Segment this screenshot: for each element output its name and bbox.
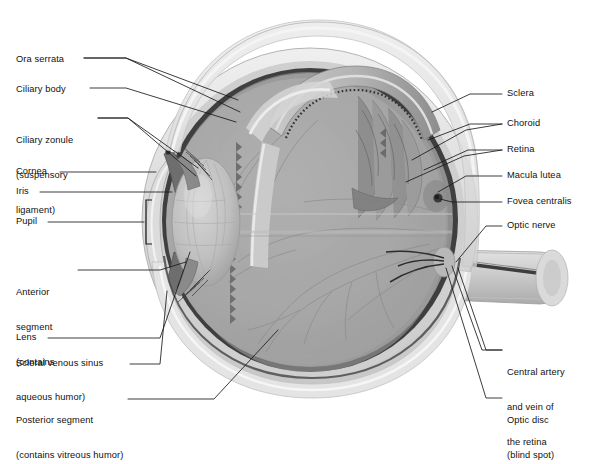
label-retina: Retina <box>507 144 534 156</box>
label-optic-disc-line-1: Optic disc <box>507 415 554 427</box>
label-iris: Iris <box>16 186 29 198</box>
fovea-center <box>435 195 439 199</box>
label-posterior-segment: Posterior segment (contains vitreous hum… <box>16 392 123 464</box>
label-pupil: Pupil <box>16 216 37 228</box>
label-posterior-segment-line-1: Posterior segment <box>16 415 123 427</box>
label-lens: Lens <box>16 332 37 344</box>
lens <box>172 158 240 286</box>
label-posterior-segment-line-2: (contains vitreous humor) <box>16 450 123 462</box>
label-central-artery-vein-line-1: Central artery <box>507 367 565 379</box>
label-fovea-centralis: Fovea centralis <box>507 196 572 208</box>
label-ciliary-zonule-line-3: ligament) <box>16 205 73 217</box>
optic-disc <box>433 247 455 277</box>
label-choroid: Choroid <box>507 118 540 130</box>
label-ciliary-zonule-line-1: Ciliary zonule <box>16 135 73 147</box>
label-optic-disc-line-2: (blind spot) <box>507 450 554 462</box>
label-scleral-venous-sinus: Scleral venous sinus <box>16 358 103 370</box>
label-optic-nerve: Optic nerve <box>507 220 556 232</box>
ora-serrata-teeth-right <box>380 128 386 158</box>
label-optic-disc: Optic disc (blind spot) <box>507 392 554 464</box>
label-anterior-segment-line-1: Anterior <box>16 287 85 299</box>
label-ciliary-body: Ciliary body <box>16 84 66 96</box>
label-sclera: Sclera <box>507 88 534 100</box>
optic-nerve-cap-inner <box>543 260 561 296</box>
label-macula-lutea: Macula lutea <box>507 170 561 182</box>
label-cornea: Cornea <box>16 166 47 178</box>
label-ora-serrata: Ora serrata <box>16 54 64 66</box>
